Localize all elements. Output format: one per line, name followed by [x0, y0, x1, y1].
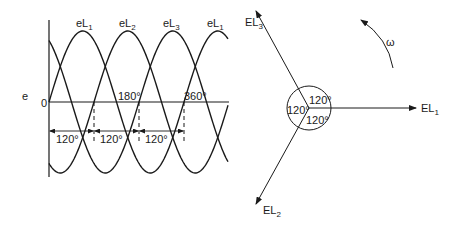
curve-label-el1-repeat: eL1 [207, 17, 224, 32]
spacing-label-3: 120° [145, 133, 168, 145]
y-axis-label: e [22, 90, 28, 102]
phasor-label-el2: EL2 [263, 204, 281, 219]
origin-label: 0 [41, 97, 47, 109]
phasor-diagram: EL1 EL2 EL3 120° 120° 120° ω [245, 11, 439, 219]
omega-label: ω [386, 36, 395, 48]
marker-label-180: 180° [118, 90, 141, 102]
phasor-el3 [256, 11, 309, 108]
three-phase-diagram: e 0 eL1 eL2 eL3 eL1 180° 360° 120° 120° … [0, 0, 455, 225]
curve-label-el2: eL2 [119, 17, 136, 32]
marker-label-360: 360° [184, 90, 207, 102]
curve-label-el1: eL1 [76, 17, 93, 32]
angle-label-lower: 120° [306, 114, 329, 126]
angle-label-upper: 120° [309, 94, 332, 106]
spacing-label-2: 120° [100, 133, 123, 145]
curve-label-el3: eL3 [163, 17, 180, 32]
spacing-label-1: 120° [56, 133, 79, 145]
phasor-el2 [256, 108, 309, 204]
phasor-label-el3: EL3 [245, 16, 263, 31]
waveform-plot: e 0 eL1 eL2 eL3 eL1 180° 360° 120° 120° … [22, 17, 229, 177]
phasor-label-el1: EL1 [421, 102, 439, 117]
